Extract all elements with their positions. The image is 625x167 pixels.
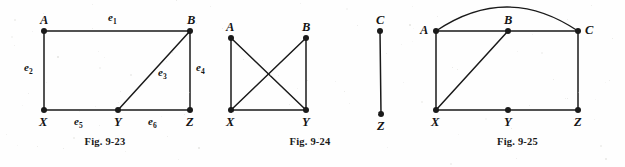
graph-vertex-C	[377, 28, 383, 34]
graph-9-25	[410, 0, 625, 133]
vertex-label-Z: Z	[377, 120, 385, 133]
figure-9-23: Fig. 9-23 ABXYZe1e2e3e4e5e6	[0, 0, 210, 167]
graph-vertex-C	[575, 28, 581, 34]
figure-9-24: Fig. 9-24 ABCXYZ	[210, 0, 410, 167]
graph-vertex-X	[228, 107, 234, 113]
vertex-label-B: B	[302, 21, 310, 34]
vertex-label-C: C	[585, 24, 593, 37]
figure-caption-9-25: Fig. 9-25	[410, 136, 625, 147]
graph-edge-CZ	[380, 31, 381, 114]
vertex-label-Y: Y	[504, 116, 512, 129]
vertex-label-Y: Y	[114, 116, 122, 129]
vertex-label-C: C	[376, 14, 384, 27]
vertex-label-Z: Z	[186, 116, 194, 129]
vertex-label-B: B	[187, 14, 195, 27]
graph-vertex-B	[187, 28, 193, 34]
graph-vertex-Z	[187, 107, 193, 113]
vertex-label-A: A	[226, 21, 234, 34]
vertex-label-A: A	[420, 24, 428, 37]
graph-vertex-A	[228, 35, 234, 41]
graph-vertex-X	[41, 107, 47, 113]
graph-vertex-Y	[505, 107, 511, 113]
graph-vertex-B	[505, 28, 511, 34]
graph-edge-e3	[118, 31, 190, 110]
graph-vertex-Z	[575, 107, 581, 113]
edge-label-e6: e6	[148, 116, 157, 130]
vertex-label-A: A	[40, 14, 48, 27]
edge-label-e4: e4	[196, 62, 205, 76]
figure-caption-9-24: Fig. 9-24	[210, 136, 410, 147]
graph-vertex-Z	[378, 111, 384, 117]
scanned-page: Fig. 9-23 ABXYZe1e2e3e4e5e6 Fig. 9-24 AB…	[0, 0, 625, 167]
graph-vertex-B	[303, 35, 309, 41]
graph-vertex-A	[41, 28, 47, 34]
graph-edge-XB	[436, 31, 508, 110]
graph-vertex-X	[433, 107, 439, 113]
edge-label-e1: e1	[108, 12, 117, 26]
graph-vertex-Y	[303, 107, 309, 113]
vertex-label-X: X	[226, 116, 234, 129]
vertex-label-X: X	[431, 116, 439, 129]
edge-label-e3: e3	[158, 67, 167, 81]
vertex-label-Y: Y	[302, 116, 310, 129]
edge-label-e5: e5	[74, 116, 83, 130]
vertex-label-B: B	[504, 14, 512, 27]
graph-vertex-Y	[115, 107, 121, 113]
figure-9-25: Fig. 9-25 ABCXYZ	[410, 0, 625, 167]
vertex-label-X: X	[39, 116, 47, 129]
graph-vertex-A	[433, 28, 439, 34]
vertex-label-Z: Z	[574, 116, 582, 129]
edge-label-e2: e2	[24, 62, 33, 76]
figure-caption-9-23: Fig. 9-23	[0, 136, 210, 147]
